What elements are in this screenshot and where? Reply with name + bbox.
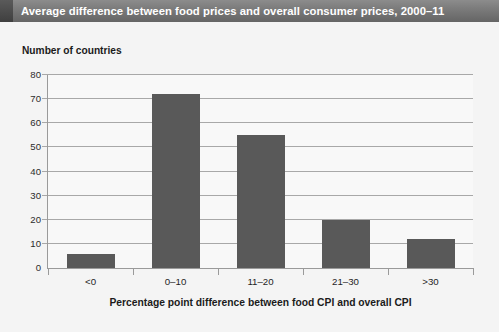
x-tick-mark-4 (388, 268, 389, 275)
chart-title-bar: Average difference between food prices a… (0, 0, 499, 22)
x-tick-label-4: >30 (422, 276, 438, 287)
bar-cell-3: 21–30 (303, 75, 388, 268)
y-tick-label-30: 30 (30, 189, 41, 200)
plot-area: 80 70 60 50 40 30 20 10 (48, 75, 473, 268)
y-tick-label-10: 10 (30, 237, 41, 248)
bar-cell-4: >30 (388, 75, 473, 268)
bar-21-30[interactable] (322, 220, 370, 268)
y-tick-label-70: 70 (30, 93, 41, 104)
bar-lt0[interactable] (67, 254, 115, 268)
x-tick-mark-1 (133, 268, 134, 275)
chart-canvas: Number of countries 80 70 60 50 40 30 (0, 22, 499, 332)
y-axis-title: Number of countries (22, 45, 122, 56)
x-axis-line (47, 268, 474, 269)
bar-11-20[interactable] (237, 135, 285, 268)
y-tick-label-80: 80 (30, 69, 41, 80)
bar-0-10[interactable] (152, 94, 200, 268)
y-tick-label-20: 20 (30, 213, 41, 224)
bar-cell-2: 11–20 (218, 75, 303, 268)
x-tick-mark-0 (48, 268, 49, 275)
x-tick-label-0: <0 (85, 276, 96, 287)
bar-cell-1: 0–10 (133, 75, 218, 268)
y-tick-label-40: 40 (30, 165, 41, 176)
y-tick-label-0: 0 (36, 262, 41, 273)
x-tick-label-2: 11–20 (247, 276, 273, 287)
y-tick-label-50: 50 (30, 141, 41, 152)
chart-title: Average difference between food prices a… (21, 0, 444, 22)
bar-series: <0 0–10 11–20 21–30 >30 (48, 75, 473, 268)
x-tick-label-1: 0–10 (165, 276, 187, 287)
y-tick-label-60: 60 (30, 117, 41, 128)
x-tick-mark-2 (218, 268, 219, 275)
x-tick-label-3: 21–30 (332, 276, 359, 287)
x-tick-mark-3 (303, 268, 304, 275)
x-axis-title: Percentage point difference between food… (48, 297, 473, 308)
bar-gt30[interactable] (407, 239, 455, 268)
x-tick-mark-5 (473, 268, 474, 275)
bar-cell-0: <0 (48, 75, 133, 268)
